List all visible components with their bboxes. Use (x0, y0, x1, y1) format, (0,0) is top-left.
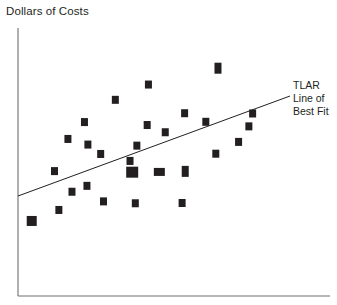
data-point-marker (212, 150, 219, 158)
data-point-marker (97, 150, 104, 158)
data-point-marker (132, 199, 139, 207)
data-point-marker (235, 138, 242, 146)
data-point-marker (112, 96, 119, 104)
data-point-marker (245, 122, 252, 130)
data-point-marker (182, 166, 189, 177)
data-point-marker (214, 63, 221, 74)
data-point-marker (162, 128, 169, 136)
data-point-marker (68, 188, 75, 196)
data-point-markers (27, 63, 256, 226)
data-point-marker (64, 135, 71, 143)
data-point-marker (51, 167, 58, 175)
data-point-marker (154, 168, 165, 176)
data-point-marker (100, 197, 107, 205)
data-point-marker (27, 216, 37, 226)
data-point-marker (55, 206, 62, 214)
trendline-label-line-1: TLAR (293, 79, 329, 92)
trendline-label-line-2: Line of (293, 92, 329, 105)
data-point-marker (127, 157, 134, 165)
trendline-label: TLAR Line of Best Fit (293, 79, 329, 119)
data-point-marker (84, 141, 91, 149)
data-point-marker (83, 182, 90, 190)
chart-axes (18, 28, 330, 296)
data-point-marker (133, 142, 140, 150)
data-point-marker (145, 81, 152, 89)
data-point-marker (181, 109, 188, 117)
plot-area (0, 0, 337, 305)
data-point-marker (126, 167, 138, 178)
data-point-marker (202, 118, 209, 126)
data-point-marker (144, 121, 151, 129)
data-point-marker (81, 118, 88, 126)
data-point-marker (179, 199, 186, 207)
scatter-chart-figure: Dollars of Costs TLAR Line of Best Fit (0, 0, 337, 305)
trendline-label-line-3: Best Fit (293, 105, 329, 118)
data-point-marker (249, 109, 256, 117)
